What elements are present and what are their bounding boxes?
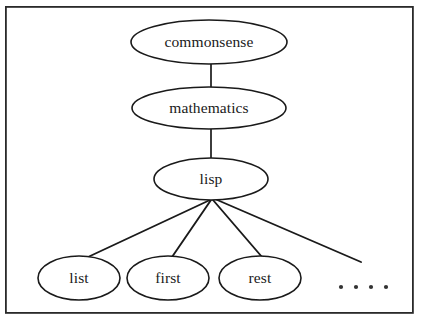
node-first-label: first <box>155 269 181 286</box>
edge-lisp-ellipsis <box>215 199 361 262</box>
node-list[interactable]: list <box>38 256 120 300</box>
ellipsis-dot-1 <box>339 285 343 289</box>
node-first[interactable]: first <box>127 256 209 300</box>
ellipsis-dot-2 <box>354 285 358 289</box>
fan-edge-group <box>88 199 361 262</box>
node-commonsense[interactable]: commonsense <box>131 20 287 64</box>
node-lisp-label: lisp <box>200 170 223 187</box>
concept-hierarchy-diagram: commonsense mathematics lisp list first … <box>0 0 422 325</box>
diagram-canvas: commonsense mathematics lisp list first … <box>0 0 422 325</box>
node-commonsense-label: commonsense <box>165 33 254 50</box>
node-mathematics[interactable]: mathematics <box>132 87 286 129</box>
node-mathematics-label: mathematics <box>169 99 248 116</box>
node-list-label: list <box>69 269 89 286</box>
ellipsis-dot-4 <box>384 285 388 289</box>
ellipsis-indicator <box>339 285 388 289</box>
node-rest-label: rest <box>249 269 272 286</box>
ellipsis-dot-3 <box>369 285 373 289</box>
node-rest[interactable]: rest <box>219 256 301 300</box>
node-lisp[interactable]: lisp <box>154 158 268 200</box>
